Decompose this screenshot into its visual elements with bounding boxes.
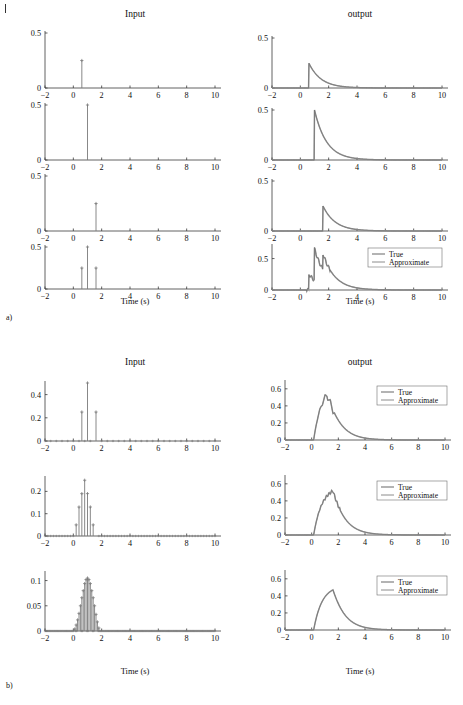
xtick-b1-input-6: 6 bbox=[156, 444, 160, 453]
xtick-a1-output-4: 4 bbox=[355, 91, 359, 100]
xtick-b3-input-4: 4 bbox=[128, 634, 132, 643]
xtick-a1-output--2: −2 bbox=[268, 91, 277, 100]
ytick-a1-input-0: 0 bbox=[37, 84, 41, 93]
xtick-b2-output-6: 6 bbox=[390, 538, 394, 547]
chart-b1-input: −2024681000.20.4 bbox=[5, 373, 245, 471]
xtick-b3-output-0: 0 bbox=[310, 633, 314, 642]
ytick-a3-input-0.5: 0.5 bbox=[31, 172, 41, 181]
xtick-b1-input-0: 0 bbox=[71, 444, 75, 453]
xtick-b3-output-4: 4 bbox=[363, 633, 367, 642]
xtick-a4-output-2: 2 bbox=[327, 293, 331, 302]
ytick-b3-output-0.4: 0.4 bbox=[271, 592, 281, 601]
ytick-b2-input-0.1: 0.1 bbox=[31, 510, 41, 519]
chart-b3-input: −2024681000.050.1 bbox=[5, 563, 245, 661]
xtick-b2-input--2: −2 bbox=[41, 539, 50, 548]
xtick-b2-input-2: 2 bbox=[100, 539, 104, 548]
xtick-a4-output-10: 10 bbox=[438, 293, 446, 302]
xtick-b3-input-0: 0 bbox=[71, 634, 75, 643]
xtick-a4-input-10: 10 bbox=[211, 292, 219, 301]
column-title-input-b: Input bbox=[75, 357, 195, 367]
xtick-b1-input-2: 2 bbox=[100, 444, 104, 453]
chart-b2-input: −2024681000.10.2 bbox=[5, 468, 245, 566]
xtick-a1-output-6: 6 bbox=[383, 91, 387, 100]
ytick-b1-output-0.6: 0.6 bbox=[271, 385, 281, 394]
corner-crop-mark bbox=[5, 4, 6, 13]
series-approximate bbox=[272, 110, 442, 160]
xtick-b2-input-10: 10 bbox=[211, 539, 219, 548]
ytick-b2-output-0: 0 bbox=[277, 531, 281, 540]
ytick-a2-input-0: 0 bbox=[37, 156, 41, 165]
ytick-a3-input-0: 0 bbox=[37, 227, 41, 236]
xtick-b3-output-10: 10 bbox=[441, 633, 449, 642]
ytick-a2-output-0.5: 0.5 bbox=[258, 106, 268, 115]
chart-b1-output: −2024681000.20.40.6TrueApproximate bbox=[245, 372, 463, 470]
xtick-a4-output-0: 0 bbox=[298, 293, 302, 302]
column-title-output-a: output bbox=[300, 9, 420, 19]
xtick-b3-output-2: 2 bbox=[336, 633, 340, 642]
series-true bbox=[272, 110, 442, 160]
series-approximate bbox=[272, 63, 442, 88]
ytick-b1-input-0.4: 0.4 bbox=[31, 391, 41, 400]
xtick-b3-output-8: 8 bbox=[416, 633, 420, 642]
ytick-b2-input-0.2: 0.2 bbox=[31, 487, 41, 496]
xtick-a4-output--2: −2 bbox=[268, 293, 277, 302]
xtick-b2-input-4: 4 bbox=[128, 539, 132, 548]
xtick-b2-output-4: 4 bbox=[363, 538, 367, 547]
ytick-a2-input-0.5: 0.5 bbox=[31, 101, 41, 110]
xtick-b3-output--2: −2 bbox=[281, 633, 290, 642]
series-approximate bbox=[272, 206, 442, 231]
xtick-a4-input-2: 2 bbox=[100, 292, 104, 301]
ytick-a2-output-0: 0 bbox=[264, 156, 268, 165]
ytick-b1-input-0: 0 bbox=[37, 437, 41, 446]
ytick-b3-input-0.1: 0.1 bbox=[31, 577, 41, 586]
chart-a4-input: −2024681000.5 bbox=[5, 237, 245, 319]
xtick-b2-input-6: 6 bbox=[156, 539, 160, 548]
xtick-b1-output-10: 10 bbox=[441, 443, 449, 452]
xtick-b2-input-8: 8 bbox=[185, 539, 189, 548]
ytick-b3-output-0: 0 bbox=[277, 626, 281, 635]
xtick-a1-output-2: 2 bbox=[327, 91, 331, 100]
xtick-b1-input-8: 8 bbox=[185, 444, 189, 453]
xtick-a1-output-8: 8 bbox=[412, 91, 416, 100]
xlabel-b-input: Time (s) bbox=[75, 666, 195, 676]
xtick-a4-input-0: 0 bbox=[71, 292, 75, 301]
xtick-b2-output-8: 8 bbox=[416, 538, 420, 547]
column-title-input-a: Input bbox=[75, 9, 195, 19]
column-title-output-b: output bbox=[300, 357, 420, 367]
ytick-b3-output-0.2: 0.2 bbox=[271, 609, 281, 618]
xtick-a4-output-8: 8 bbox=[412, 293, 416, 302]
ytick-a1-output-0: 0 bbox=[264, 84, 268, 93]
xtick-b1-output-6: 6 bbox=[390, 443, 394, 452]
xtick-b3-input-8: 8 bbox=[185, 634, 189, 643]
series-true bbox=[285, 590, 445, 630]
xtick-a4-output-4: 4 bbox=[355, 293, 359, 302]
section-label-b: b) bbox=[6, 681, 13, 690]
ytick-b2-output-0.6: 0.6 bbox=[271, 480, 281, 489]
series-true bbox=[272, 206, 442, 231]
ytick-b3-input-0.05: 0.05 bbox=[27, 602, 41, 611]
xtick-b1-output-0: 0 bbox=[310, 443, 314, 452]
xtick-b2-output-0: 0 bbox=[310, 538, 314, 547]
ytick-a4-output-0.5: 0.5 bbox=[258, 255, 268, 264]
legend-label-approximate: Approximate bbox=[389, 258, 430, 267]
xtick-b3-input--2: −2 bbox=[41, 634, 50, 643]
ytick-b2-input-0: 0 bbox=[37, 532, 41, 541]
series-true bbox=[272, 63, 442, 88]
xtick-b1-output--2: −2 bbox=[281, 443, 290, 452]
xtick-b1-input-10: 10 bbox=[211, 444, 219, 453]
xlabel-b-output: Time (s) bbox=[300, 666, 420, 676]
xtick-b2-output--2: −2 bbox=[281, 538, 290, 547]
xtick-b1-output-2: 2 bbox=[336, 443, 340, 452]
xtick-a1-output-10: 10 bbox=[438, 91, 446, 100]
xtick-b2-output-10: 10 bbox=[441, 538, 449, 547]
ytick-a3-output-0.5: 0.5 bbox=[258, 177, 268, 186]
ytick-a4-input-0.5: 0.5 bbox=[31, 243, 41, 252]
xtick-b3-input-10: 10 bbox=[211, 634, 219, 643]
xtick-b1-input-4: 4 bbox=[128, 444, 132, 453]
chart-a4-output: −2024681000.5TrueApproximate bbox=[232, 236, 463, 320]
chart-b3-output: −2024681000.20.40.6TrueApproximate bbox=[245, 562, 463, 660]
xtick-b3-input-6: 6 bbox=[156, 634, 160, 643]
ytick-b1-output-0.2: 0.2 bbox=[271, 419, 281, 428]
series-approximate bbox=[285, 590, 445, 630]
xtick-a4-input--2: −2 bbox=[41, 292, 50, 301]
